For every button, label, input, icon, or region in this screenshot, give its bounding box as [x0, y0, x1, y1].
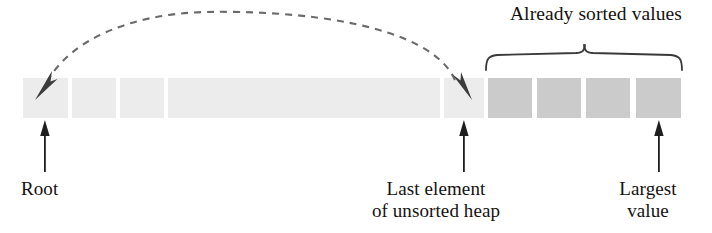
- unsorted-cell-span: [168, 78, 440, 118]
- largest-value-label: Largest value: [619, 178, 676, 222]
- diagram-canvas: Already sorted values Root Last element …: [0, 0, 712, 233]
- root-label: Root: [21, 178, 58, 200]
- unsorted-cell-3: [120, 78, 164, 118]
- root-pointer-arrow: [40, 120, 49, 172]
- sorted-cell-2: [537, 78, 581, 118]
- unsorted-cells-group: [23, 78, 484, 118]
- sorted-cell-1: [488, 78, 532, 118]
- sorted-region-brace: [486, 45, 682, 70]
- sorted-cell-3: [586, 78, 630, 118]
- sorted-region-label: Already sorted values: [510, 3, 682, 25]
- heapsort-diagram-svg: [0, 0, 712, 233]
- last-element-pointer-arrow: [459, 120, 468, 172]
- largest-value-pointer-arrow: [654, 120, 663, 172]
- last-element-label: Last element of unsorted heap: [372, 178, 500, 222]
- unsorted-cell-2: [72, 78, 116, 118]
- sorted-cell-4: [636, 78, 681, 118]
- sorted-cells-group: [488, 78, 681, 118]
- pointer-arrows-group: [40, 120, 663, 172]
